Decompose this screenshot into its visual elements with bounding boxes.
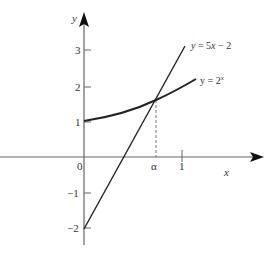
y-ticks [84, 50, 91, 228]
x-tick-label-1: 1 [179, 160, 185, 172]
exp-equation-label: y = 2x [200, 74, 225, 86]
curve-2-pow-x [84, 79, 196, 121]
origin-label: 0 [77, 160, 83, 172]
y-tick-label-neg1: −1 [67, 187, 79, 199]
line-5x-minus-2 [84, 46, 185, 229]
x-axis-label: x [223, 166, 229, 178]
y-tick-label-1: 1 [75, 116, 81, 128]
line-equation-label: y = 5x − 2 [190, 40, 231, 51]
y-tick-label-3: 3 [75, 44, 81, 56]
y-axis-label: y [71, 12, 77, 24]
y-tick-label-neg2: −2 [67, 222, 79, 234]
x-tick-label-alpha: α [151, 160, 157, 172]
y-tick-label-2: 2 [75, 81, 81, 93]
function-graph: y x 0 3 2 1 −1 −2 α 1 y = 5x − 2 y = 2x [0, 0, 275, 256]
line-label-prefix: = 5 [195, 40, 211, 51]
